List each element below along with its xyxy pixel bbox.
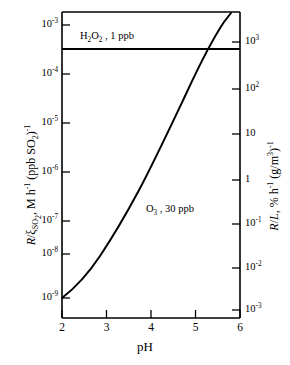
series-curve-o3 bbox=[62, 13, 231, 298]
x-axis-title: pH bbox=[0, 340, 290, 353]
right-tick-label-5: 10-2 bbox=[245, 262, 262, 273]
x-tick-label-3: 5 bbox=[186, 322, 206, 334]
right-tick-label-1: 102 bbox=[245, 83, 259, 94]
y-axis-right-title: R/L, % h-1 (g/m3)-1 bbox=[268, 86, 280, 286]
annotation-o3: O3 , 30 ppb bbox=[146, 204, 194, 215]
x-tick-label-4: 6 bbox=[230, 322, 250, 334]
x-tick-label-2: 4 bbox=[141, 322, 161, 334]
right-tick-label-0: 103 bbox=[245, 36, 259, 47]
x-axis-ticks bbox=[62, 310, 240, 318]
left-tick-label-0: 10-3 bbox=[24, 19, 58, 30]
figure-container: 10-3 10-4 10-5 10-6 10-7 10-8 10-9 103 1… bbox=[0, 0, 290, 365]
right-axis-ticks bbox=[232, 42, 240, 310]
right-tick-label-2: 10 bbox=[245, 128, 256, 139]
right-tick-label-3: 1 bbox=[245, 174, 250, 185]
left-tick-label-6: 10-9 bbox=[24, 292, 58, 303]
x-tick-label-1: 3 bbox=[97, 322, 117, 334]
left-tick-label-1: 10-4 bbox=[24, 68, 58, 79]
left-axis-ticks bbox=[62, 25, 70, 298]
right-tick-label-6: 10-3 bbox=[245, 304, 262, 315]
x-tick-label-0: 2 bbox=[52, 322, 72, 334]
annotation-h2o2: H2O2 , 1 ppb bbox=[80, 31, 134, 42]
y-axis-left-title: R/ξSO2, M h-1 (ppb SO2)-1 bbox=[25, 85, 39, 285]
right-tick-label-4: 10-1 bbox=[245, 218, 262, 229]
